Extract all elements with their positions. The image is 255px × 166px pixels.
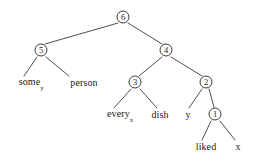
tree-edge-n6-n4 — [128, 23, 162, 44]
tree-edge-n5-some — [24, 57, 37, 76]
node-5-label: 5 — [35, 44, 48, 57]
leaf-every-text: every — [107, 108, 130, 119]
leaf-y-variable-text: y — [185, 109, 190, 120]
tree-edge-n4-n3 — [139, 57, 162, 76]
leaf-every-subscript: x — [130, 117, 133, 123]
node-6: 6 — [117, 11, 130, 24]
node-3: 3 — [129, 76, 142, 89]
leaf-some-text: some — [19, 76, 41, 87]
node-2-label: 2 — [200, 76, 213, 89]
tree-edge-n5-person — [46, 57, 69, 76]
tree-edge-n4-n2 — [171, 57, 202, 76]
tree-edge-n1-xvar — [220, 121, 235, 140]
leaf-dish: dish — [151, 110, 168, 120]
node-5: 5 — [35, 44, 48, 57]
node-6-label: 6 — [117, 11, 130, 24]
node-4-label: 4 — [160, 44, 173, 57]
leaf-x-variable: x — [235, 142, 240, 152]
leaf-person-text: person — [70, 77, 97, 88]
leaf-some: somey — [19, 77, 44, 89]
leaf-x-variable-text: x — [235, 141, 240, 152]
leaf-liked-text: liked — [196, 141, 217, 152]
node-2: 2 — [200, 76, 213, 89]
leaf-every: everyx — [107, 109, 133, 121]
tree-edge-n3-dish — [140, 89, 157, 108]
tree-edge-n3-every — [114, 89, 131, 108]
leaf-y-variable: y — [185, 110, 190, 120]
leaf-liked: liked — [196, 142, 217, 152]
tree-edge-n2-yvar — [189, 89, 202, 108]
node-4: 4 — [160, 44, 173, 57]
node-3-label: 3 — [129, 76, 142, 89]
tree-edge-n2-n1 — [209, 89, 214, 107]
leaf-person: person — [70, 78, 97, 88]
leaf-dish-text: dish — [151, 109, 168, 120]
node-1: 1 — [209, 108, 222, 121]
derivation-tree-figure: 6 5 4 3 2 1 somey person everyx dish y l… — [0, 0, 255, 166]
leaf-some-subscript: y — [40, 85, 43, 91]
tree-edge-n6-n5 — [45, 23, 118, 44]
tree-edge-n1-liked — [202, 121, 211, 140]
node-1-label: 1 — [209, 108, 222, 121]
